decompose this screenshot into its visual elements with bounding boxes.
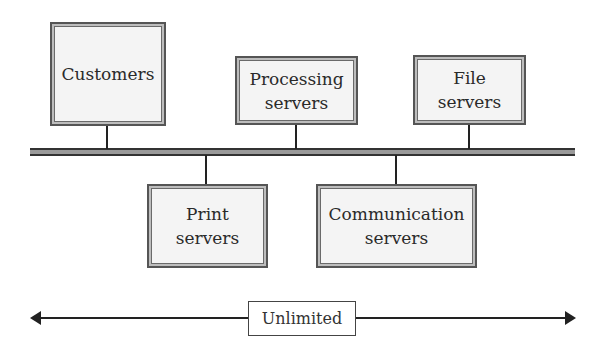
connector-customers	[106, 125, 108, 149]
scale-label: Unlimited	[248, 301, 356, 336]
connector-print-servers	[205, 155, 207, 184]
node-label: servers	[249, 91, 343, 115]
node-print-servers: Print servers	[147, 184, 268, 268]
connector-file-servers	[468, 124, 470, 149]
node-processing-servers: Processing servers	[235, 56, 358, 125]
node-customers: Customers	[50, 22, 166, 126]
node-label: File	[438, 66, 501, 90]
node-label: servers	[438, 90, 501, 114]
scale-label-text: Unlimited	[262, 309, 342, 328]
connector-processing-servers	[295, 124, 297, 149]
arrow-right-icon	[565, 311, 576, 325]
node-label: Customers	[62, 62, 155, 86]
node-label: Processing	[249, 67, 343, 91]
network-bus	[30, 148, 575, 156]
node-label: servers	[176, 226, 239, 250]
node-label: Communication	[329, 202, 465, 226]
node-file-servers: File servers	[413, 55, 526, 125]
scale-arrow-left-line	[38, 317, 249, 319]
node-communication-servers: Communication servers	[316, 184, 477, 268]
node-label: servers	[329, 226, 465, 250]
node-label: Print	[176, 202, 239, 226]
scale-arrow-right-line	[355, 317, 567, 319]
connector-communication-servers	[395, 155, 397, 184]
